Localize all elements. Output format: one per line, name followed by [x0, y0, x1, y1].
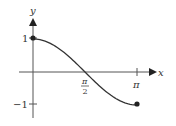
- x-tick-label-half-pi-den: 2: [83, 87, 88, 96]
- x-axis-label: x: [158, 67, 164, 78]
- cosine-chart: y x 1 −1 π 2 π: [0, 0, 176, 126]
- y-tick-label-neg1: −1: [13, 99, 28, 110]
- x-tick-label-pi: π: [132, 79, 140, 90]
- y-tick-label-1: 1: [22, 33, 28, 44]
- start-point: [30, 35, 35, 40]
- y-axis-label: y: [29, 5, 36, 16]
- end-point: [134, 101, 139, 106]
- x-tick-label-half-pi-num: π: [81, 77, 88, 86]
